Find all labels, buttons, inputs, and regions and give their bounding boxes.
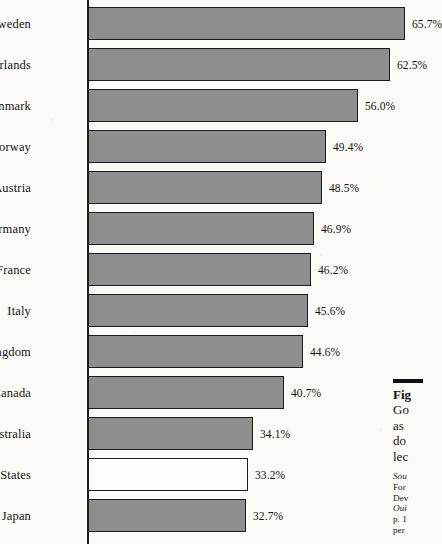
bar-row: Japan32.7%: [0, 495, 380, 536]
bar: [88, 171, 322, 204]
category-label: Denmark: [0, 98, 31, 113]
caption-line: do: [393, 433, 433, 449]
value-label: 65.7%: [412, 18, 442, 30]
bar-row: Sweden65.7%: [0, 3, 380, 44]
value-label: 46.9%: [321, 223, 351, 235]
bar-row: Canada40.7%: [0, 372, 380, 413]
bar-track: [88, 253, 311, 286]
bar: [88, 48, 390, 81]
bar-row: Australia34.1%: [0, 413, 380, 454]
category-label: Sweden: [0, 16, 31, 31]
bar-track: [88, 7, 405, 40]
category-label: Australia: [0, 426, 31, 441]
category-label: United States: [0, 467, 31, 482]
bar: [88, 335, 303, 368]
bar: [88, 417, 253, 450]
value-label: 40.7%: [291, 387, 321, 399]
category-label: Japan: [2, 508, 31, 523]
value-label: 56.0%: [365, 100, 395, 112]
category-label: West Germany: [0, 221, 31, 236]
bar: [88, 253, 311, 286]
bar-track: [88, 130, 326, 163]
bar-row: Italy45.6%: [0, 290, 380, 331]
source-note: Sou For Dev Oui p. 1 per: [393, 471, 433, 536]
value-label: 46.2%: [318, 264, 348, 276]
bar-track: [88, 212, 314, 245]
caption-line: as: [393, 418, 433, 434]
category-label: Norway: [0, 139, 31, 154]
value-label: 49.4%: [333, 141, 363, 153]
bar-row: France46.2%: [0, 249, 380, 290]
bar-row: Netherlands62.5%: [0, 44, 380, 85]
bar-track: [88, 48, 390, 81]
category-label: France: [0, 262, 31, 277]
bar-row: West Germany46.9%: [0, 208, 380, 249]
bar-track: [88, 89, 358, 122]
bar-row: Norway49.4%: [0, 126, 380, 167]
source-note-line: Sou: [393, 471, 433, 482]
caption-line: lec: [393, 449, 433, 465]
bar: [88, 130, 326, 163]
bar-track: [88, 458, 248, 491]
category-label: Austria: [0, 180, 31, 195]
bar-track: [88, 171, 322, 204]
source-note-line: For: [393, 482, 433, 493]
bar-track: [88, 499, 246, 532]
figure-caption-column: Fig Go as do lec Sou For Dev Oui p. 1 pe…: [393, 376, 433, 544]
value-label: 62.5%: [397, 59, 427, 71]
bar: [88, 294, 308, 327]
bar-track: [88, 294, 308, 327]
caption-rule: [393, 379, 423, 383]
value-label: 33.2%: [255, 469, 285, 481]
bar: [88, 499, 246, 532]
bar-track: [88, 335, 303, 368]
value-label: 44.6%: [310, 346, 340, 358]
category-label: Canada: [0, 385, 31, 400]
source-note-line: p. 1: [393, 514, 433, 525]
value-label: 48.5%: [329, 182, 359, 194]
bar-track: [88, 376, 284, 409]
bar: [88, 212, 314, 245]
bar: [88, 376, 284, 409]
bar-row: United States33.2%: [0, 454, 380, 495]
category-label: Italy: [7, 303, 31, 318]
caption-text: Fig Go as do lec: [393, 387, 433, 465]
source-note-line: Oui: [393, 503, 433, 514]
bar-row: Denmark56.0%: [0, 85, 380, 126]
caption-line: Go: [393, 402, 433, 418]
bar-highlighted: [88, 458, 248, 491]
value-label: 45.6%: [315, 305, 345, 317]
bar-row: Austria48.5%: [0, 167, 380, 208]
plot-area: Sweden65.7%Netherlands62.5%Denmark56.0%N…: [0, 0, 380, 544]
bar-row: United Kingdom44.6%: [0, 331, 380, 372]
caption-lead: Fig: [393, 387, 433, 403]
bar-track: [88, 417, 253, 450]
category-label: Netherlands: [0, 57, 31, 72]
value-label: 32.7%: [253, 510, 283, 522]
value-label: 34.1%: [260, 428, 290, 440]
source-note-line: Dev: [393, 493, 433, 504]
category-label: United Kingdom: [0, 344, 31, 359]
bar: [88, 7, 405, 40]
bar: [88, 89, 358, 122]
source-note-line: per: [393, 525, 433, 536]
